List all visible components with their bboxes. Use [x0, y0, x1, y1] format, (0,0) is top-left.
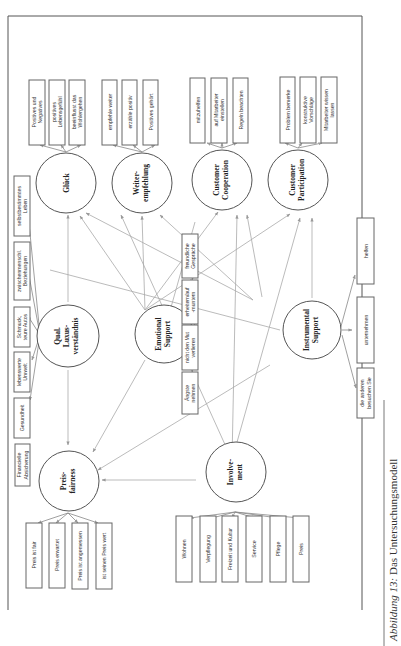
svg-text:empfehlung: empfehlung: [141, 164, 150, 202]
svg-text:auf Mitarbeiter: auf Mitarbeiter: [213, 93, 219, 126]
construct-instrumental-support: Instrumental Support: [283, 301, 341, 359]
construct-weiterempfehlung: Weiter- empfehlung: [112, 153, 172, 213]
svg-text:Positives gehört: Positives gehört: [148, 93, 154, 130]
svg-text:Wohnen: Wohnen: [181, 539, 187, 558]
svg-text:Participation: Participation: [297, 158, 306, 201]
svg-text:Customer: Customer: [212, 164, 221, 196]
indicator-customer-cooperation-1: mitzuhelfen: [190, 78, 205, 143]
svg-text:Negatives: Negatives: [37, 100, 43, 123]
svg-text:empfehle weiter: empfehle weiter: [107, 93, 113, 130]
svg-text:ment: ment: [235, 463, 244, 480]
indicator-customer-participation-1: Problem bemerke: [280, 77, 295, 143]
svg-text:Financielle: Financielle: [16, 452, 22, 477]
indicator-qual-luxus-3: lebenswerte Umwelt: [14, 352, 30, 392]
indicator-qual-luxus-4: Schmuck, teure Autos: [14, 307, 30, 347]
svg-text:verlieren: verlieren: [190, 337, 196, 357]
svg-text:besuchen Sie: besuchen Sie: [366, 377, 372, 409]
svg-text:Freizeit und Kultur: Freizeit und Kultur: [227, 528, 233, 570]
svg-text:Wohlergehen: Wohlergehen: [77, 97, 83, 128]
indicator-emotional-support-3: erheitern/auf -muntern: [182, 280, 198, 324]
svg-text:Problem bemerke: Problem bemerke: [285, 89, 291, 130]
svg-text:-muntern: -muntern: [190, 292, 196, 313]
svg-text:Preis erwartet: Preis erwartet: [54, 538, 60, 571]
svg-text:selbstbestimmtes: selbstbestimmtes: [16, 186, 22, 226]
indicator-emotional-support-2: nicht den Mut verlieren: [182, 325, 198, 370]
indicator-involvement-3: Freizeit und Kultur: [222, 516, 238, 582]
svg-text:Positives und: Positives und: [31, 96, 37, 127]
construct-glueck: Glück: [36, 153, 96, 213]
svg-text:Cooperation: Cooperation: [221, 159, 230, 200]
indicator-glueck-1: Positives und Negatives: [29, 80, 45, 145]
indicator-involvement-1: Wohnen: [176, 516, 192, 582]
indicator-instrumental-support-2: unternehmen: [357, 297, 374, 363]
indicator-preisfairness-4: ist seinen Preis wert: [96, 523, 112, 589]
svg-text:verständnis: verständnis: [71, 317, 80, 354]
indicator-instrumental-support-3: helfen: [357, 218, 374, 284]
svg-text:Mitarbeiter wissen: Mitarbeiter wissen: [323, 89, 329, 131]
indicator-glueck-2: positives Lebensgefühl: [49, 80, 65, 145]
svg-text:mitzuhelfen: mitzuhelfen: [195, 97, 201, 124]
svg-text:Preis-: Preis-: [59, 471, 68, 490]
indicator-weiterempfehlung-1: empfehle weiter: [102, 80, 117, 145]
svg-text:Gespräche: Gespräche: [190, 243, 196, 268]
indicator-preisfairness-3: Preis ist angemessen: [72, 523, 88, 589]
svg-text:zwischenmenschl.: zwischenmenschl.: [16, 250, 22, 292]
svg-text:Schmuck,: Schmuck,: [16, 316, 22, 339]
svg-text:Support: Support: [163, 320, 172, 347]
construct-qual-luxusverstaendnis: Qual. Luxus- verständnis: [37, 305, 99, 367]
indicator-customer-participation-2: konstruktive Vorschläge: [300, 77, 316, 143]
research-model-diagram: Glück Weiter- empfehlung Customer Cooper…: [0, 0, 401, 646]
svg-text:fairness: fairness: [68, 468, 77, 493]
svg-text:Ängste: Ängste: [184, 385, 190, 401]
indicator-involvement-2: Verpflegung: [200, 516, 216, 582]
indicator-preisfairness-1: Preis ist fair: [26, 523, 42, 588]
svg-text:konstruktive: konstruktive: [302, 96, 308, 124]
svg-text:Qual.: Qual.: [53, 327, 62, 345]
indicator-qual-luxus-6: selbstbestimmtes Leben: [14, 176, 30, 236]
indicator-glueck-3: beeinflusst das Wohlergehen: [69, 80, 85, 145]
construct-involvement: Involve- ment: [206, 442, 266, 502]
indicator-qual-luxus-5: zwischenmenschl. Beziehungen: [14, 242, 30, 300]
indicator-weiterempfehlung-3: Positives gehört: [143, 80, 158, 145]
indicator-weiterempfehlung-2: erzähle positiv: [122, 80, 137, 145]
indicator-preisfairness-2: Preis erwartet: [49, 523, 65, 588]
svg-text:Beziehungen: Beziehungen: [22, 256, 28, 286]
svg-text:Preis: Preis: [298, 543, 304, 555]
svg-text:Verpflegung: Verpflegung: [205, 535, 211, 563]
svg-text:Instrumental: Instrumental: [302, 309, 311, 351]
indicator-emotional-support-1: Ängste nehmen: [182, 372, 198, 414]
svg-text:nicht den Mut: nicht den Mut: [184, 331, 190, 363]
svg-text:die anderen: die anderen: [359, 379, 365, 407]
svg-text:Involve-: Involve-: [226, 458, 235, 485]
svg-text:Lebensgefühl: Lebensgefühl: [57, 96, 63, 127]
svg-text:Weiter-: Weiter-: [132, 171, 141, 195]
figure-caption: Abbildung 13: Das Untersuchungsmodell: [387, 459, 399, 642]
svg-text:positives: positives: [51, 102, 57, 123]
svg-text:Leben: Leben: [22, 199, 28, 214]
svg-text:Vorschläge: Vorschläge: [308, 97, 314, 123]
indicator-qual-luxus-2: Gesundheit: [14, 398, 30, 438]
svg-text:helfen: helfen: [363, 244, 369, 258]
indicator-customer-cooperation-2: auf Mitarbeiter einstellen: [211, 78, 227, 143]
indicator-involvement-6: Preis: [293, 516, 309, 582]
caption-text: Das Untersuchungsmodell: [387, 459, 399, 578]
svg-text:erheitern/auf: erheitern/auf: [184, 287, 190, 317]
svg-text:unternehmen: unternehmen: [363, 315, 369, 346]
indicator-emotional-support-4: freundliche Gespräche: [182, 234, 198, 278]
svg-text:Luxus-: Luxus-: [62, 324, 71, 347]
svg-text:Glück: Glück: [62, 172, 71, 192]
indicator-involvement-4: Service: [246, 516, 262, 582]
svg-text:Emotional: Emotional: [154, 317, 163, 350]
svg-text:ist seinen Preis wert: ist seinen Preis wert: [101, 532, 107, 579]
svg-text:freundliche: freundliche: [184, 243, 190, 268]
indicator-qual-luxus-1: Financielle Absicherung: [15, 444, 30, 486]
construct-customer-cooperation: Customer Cooperation: [192, 150, 252, 210]
svg-text:Umwelt: Umwelt: [22, 363, 28, 381]
svg-text:Gesundheit: Gesundheit: [19, 404, 25, 431]
svg-text:Regeln beachten: Regeln beachten: [238, 90, 244, 129]
construct-customer-participation: Customer Participation: [268, 150, 328, 210]
indicator-customer-cooperation-3: Regeln beachten: [233, 78, 248, 143]
svg-text:teure Autos: teure Autos: [22, 313, 28, 340]
construct-preisfairness: Preis- fairness: [39, 451, 99, 511]
svg-text:Preis ist fair: Preis ist fair: [31, 541, 37, 568]
